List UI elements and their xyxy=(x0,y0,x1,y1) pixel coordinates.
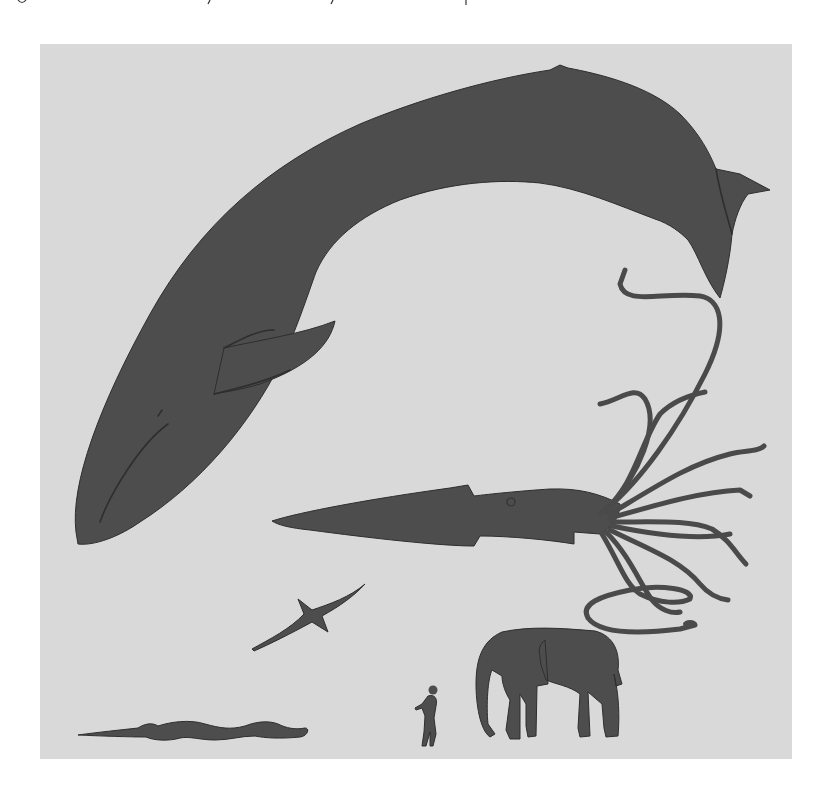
snake-silhouette xyxy=(78,721,308,740)
albatross-silhouette xyxy=(252,584,365,651)
blue-whale-silhouette xyxy=(75,65,770,544)
clipped-caption-fragment xyxy=(0,0,833,6)
elephant-silhouette xyxy=(476,628,622,739)
giant-squid-silhouette xyxy=(272,270,764,632)
human-silhouette xyxy=(415,686,438,747)
size-comparison-figure xyxy=(40,44,792,759)
